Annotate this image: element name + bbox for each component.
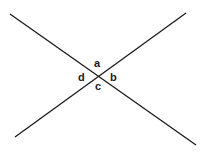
- lines-svg: [0, 0, 204, 153]
- angle-label-c: c: [95, 81, 101, 92]
- line-1: [10, 14, 196, 145]
- angle-label-a: a: [94, 58, 100, 69]
- angle-label-b: b: [110, 72, 117, 83]
- angle-label-d: d: [78, 72, 85, 83]
- line-2: [15, 13, 186, 137]
- diagram-canvas: a b c d: [0, 0, 204, 153]
